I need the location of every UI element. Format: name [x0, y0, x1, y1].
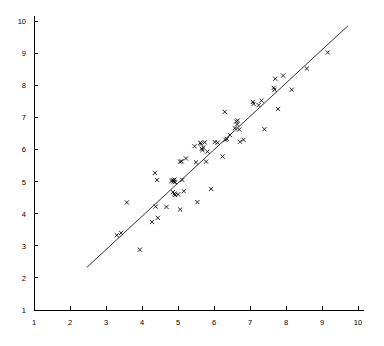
y-tick-label: 3: [22, 242, 26, 251]
data-point: [182, 189, 186, 193]
data-point: [203, 140, 207, 144]
data-point: [221, 154, 225, 158]
regression-line-path: [87, 26, 348, 267]
data-point: [119, 231, 123, 235]
data-point: [273, 77, 277, 81]
x-tick-label: 9: [320, 318, 324, 327]
x-tick-label: 10: [354, 318, 362, 327]
data-points-group: [115, 50, 330, 251]
data-point: [233, 126, 237, 130]
data-point: [262, 127, 266, 131]
data-point: [326, 50, 330, 54]
data-point: [305, 66, 309, 70]
data-point: [155, 178, 159, 182]
y-tick-label: 4: [22, 210, 26, 219]
data-point: [276, 107, 280, 111]
data-point: [138, 248, 142, 252]
data-point: [150, 220, 154, 224]
data-point: [290, 88, 294, 92]
data-point: [235, 122, 239, 126]
x-tick-label: 5: [176, 318, 180, 327]
y-tick-label: 1: [22, 306, 26, 315]
axis-ticks-group: [34, 21, 358, 310]
data-point: [223, 110, 227, 114]
y-tick-label: 5: [22, 178, 26, 187]
x-tick-label: 2: [68, 318, 72, 327]
data-point: [176, 192, 180, 196]
y-tick-label: 7: [22, 113, 26, 122]
data-point: [281, 73, 285, 77]
data-point: [184, 156, 188, 160]
y-tick-label: 10: [18, 17, 26, 26]
x-tick-label: 8: [284, 318, 288, 327]
data-point: [257, 103, 261, 107]
x-tick-label: 1: [32, 318, 36, 327]
x-tick-label: 4: [140, 318, 144, 327]
scatter-plot-figure: 1234567891012345678910: [0, 0, 384, 346]
data-point: [178, 207, 182, 211]
data-point: [164, 205, 168, 209]
y-tick-label: 8: [22, 81, 26, 90]
data-point: [195, 200, 199, 204]
data-point: [115, 233, 119, 237]
data-point: [154, 205, 158, 209]
data-point: [259, 99, 263, 103]
data-point: [204, 160, 208, 164]
data-point: [194, 160, 198, 164]
y-tick-label: 2: [22, 274, 26, 283]
y-tick-label: 6: [22, 145, 26, 154]
series-observations: [115, 50, 330, 251]
data-point: [237, 127, 241, 131]
data-point: [228, 133, 232, 137]
data-point: [216, 141, 220, 145]
x-tick-label: 3: [104, 318, 108, 327]
data-point: [209, 187, 213, 191]
data-point: [205, 150, 209, 154]
x-tick-label: 7: [248, 318, 252, 327]
regression-line: [87, 26, 348, 267]
data-point: [192, 144, 196, 148]
x-tick-label: 6: [212, 318, 216, 327]
data-point: [156, 216, 160, 220]
plot-canvas: 1234567891012345678910: [0, 0, 384, 346]
data-point: [125, 200, 129, 204]
y-tick-label: 9: [22, 49, 26, 58]
data-point: [236, 118, 240, 122]
data-point: [153, 171, 157, 175]
